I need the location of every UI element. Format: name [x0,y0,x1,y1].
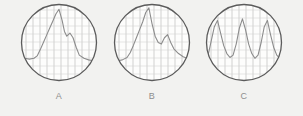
panel-caption-c: C [205,90,283,102]
panel-caption-a: A [20,90,98,102]
grid-b [113,3,191,82]
waveform-panel-a [20,3,98,82]
panel-caption-b: B [113,90,191,102]
grid-a [20,3,98,82]
waveform-figure: A B C [0,0,303,116]
waveform-panel-c [205,3,283,82]
grid-c [205,3,283,82]
waveform-panel-b [113,3,191,82]
